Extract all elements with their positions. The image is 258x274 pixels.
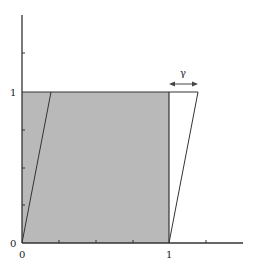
gamma-arrow: [169, 82, 198, 87]
y-one-label: 1: [10, 87, 16, 98]
y-zero-label: 0: [10, 238, 16, 249]
gamma-label: γ: [180, 67, 186, 78]
shear-diagram: γ 1 0 0 1: [0, 0, 258, 274]
parallelogram-right-edge: [169, 92, 198, 243]
x-one-label: 1: [166, 249, 172, 260]
unit-square: [22, 92, 169, 243]
x-zero-label: 0: [19, 249, 25, 260]
